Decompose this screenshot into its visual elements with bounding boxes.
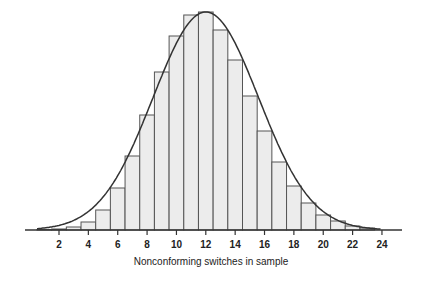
histogram-bar (140, 115, 155, 230)
histogram-bar (169, 36, 184, 230)
histogram-bar (81, 222, 96, 230)
histogram-bar (213, 30, 228, 230)
x-tick-label: 24 (376, 239, 388, 250)
histogram-bar (110, 188, 125, 230)
x-tick-label: 20 (318, 239, 330, 250)
histogram-bar (96, 210, 111, 230)
histogram-bar (287, 186, 302, 230)
histogram-bar (125, 156, 140, 230)
histogram-chart: 24681012141618202224 (0, 0, 422, 281)
x-tick-label: 14 (230, 239, 242, 250)
x-tick-label: 10 (171, 239, 183, 250)
x-tick-label: 8 (144, 239, 150, 250)
x-tick-label: 4 (86, 239, 92, 250)
x-tick-label: 2 (56, 239, 62, 250)
x-tick-label: 16 (259, 239, 271, 250)
histogram-bar (257, 131, 272, 230)
histogram-bar (243, 96, 258, 230)
x-tick-label: 12 (200, 239, 212, 250)
x-tick-label: 6 (115, 239, 121, 250)
histogram-bar (184, 15, 199, 230)
histogram-bar (301, 203, 316, 230)
x-axis-label: Nonconforming switches in sample (0, 256, 422, 267)
histogram-bar (154, 72, 169, 230)
x-tick-label: 18 (288, 239, 300, 250)
histogram-bar (272, 162, 287, 230)
histogram-bar (198, 12, 213, 230)
histogram-bar (316, 215, 331, 230)
x-tick-label: 22 (347, 239, 359, 250)
histogram-bar (228, 60, 243, 230)
